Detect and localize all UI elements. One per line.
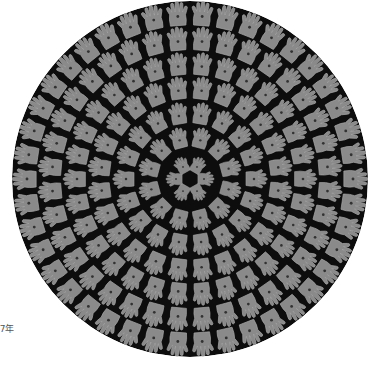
palm-dot-icon	[106, 212, 109, 215]
palm-dot-icon	[200, 115, 202, 117]
palm-dot-icon	[201, 340, 204, 343]
palm-dot-icon	[308, 288, 311, 291]
palm-dot-icon	[323, 269, 326, 272]
palm-dot-icon	[91, 275, 94, 278]
palm-dot-icon	[248, 329, 251, 332]
palm-dot-icon	[314, 119, 317, 122]
palm-dot-icon	[302, 257, 305, 260]
palm-dot-icon	[69, 288, 72, 291]
palm-dot-icon	[130, 53, 133, 56]
palm-dot-icon	[132, 80, 135, 83]
palm-dot-icon	[26, 178, 29, 181]
palm-dot-icon	[201, 290, 204, 293]
palm-dot-icon	[177, 290, 180, 293]
palm-dot-icon	[85, 132, 88, 135]
palm-dot-icon	[107, 36, 110, 39]
palm-dot-icon	[140, 219, 142, 221]
palm-dot-icon	[178, 115, 180, 117]
palm-dot-icon	[113, 94, 116, 97]
palm-dot-icon	[64, 119, 67, 122]
palm-dot-icon	[268, 65, 271, 68]
palm-dot-icon	[224, 285, 227, 288]
palm-dot-icon	[271, 144, 274, 147]
palm-dot-icon	[130, 303, 133, 306]
palm-dot-icon	[268, 291, 271, 294]
palm-dot-icon	[177, 266, 180, 269]
palm-dot-icon	[33, 130, 36, 133]
palm-dot-icon	[270, 319, 273, 322]
palm-dot-icon	[182, 190, 184, 192]
hand-circle-artwork	[0, 0, 374, 369]
palm-dot-icon	[129, 200, 131, 202]
palm-dot-icon	[217, 150, 219, 152]
palm-dot-icon	[277, 166, 280, 169]
palm-dot-icon	[280, 111, 283, 114]
palm-dot-icon	[292, 132, 295, 135]
palm-dot-icon	[201, 315, 204, 318]
palm-dot-icon	[299, 154, 302, 157]
palm-dot-icon	[106, 144, 109, 147]
palm-dot-icon	[224, 44, 227, 47]
palm-dot-icon	[227, 167, 229, 169]
palm-dot-icon	[302, 98, 305, 101]
palm-dot-icon	[87, 50, 90, 53]
palm-dot-icon	[125, 178, 127, 180]
palm-dot-icon	[69, 67, 72, 70]
palm-dot-icon	[308, 67, 311, 70]
palm-dot-icon	[322, 142, 325, 145]
palm-dot-icon	[161, 206, 163, 208]
palm-dot-icon	[161, 150, 163, 152]
palm-dot-icon	[51, 190, 54, 193]
palm-dot-icon	[350, 153, 353, 156]
palm-dot-icon	[129, 329, 132, 332]
palm-dot-icon	[153, 311, 156, 314]
palm-dot-icon	[140, 137, 142, 139]
palm-dot-icon	[302, 178, 305, 181]
palm-dot-icon	[54, 86, 57, 89]
palm-dot-icon	[335, 107, 338, 110]
palm-dot-icon	[176, 340, 179, 343]
palm-dot-icon	[238, 137, 240, 139]
palm-dot-icon	[224, 70, 227, 73]
palm-dot-icon	[153, 44, 156, 47]
palm-dot-icon	[135, 107, 138, 110]
palm-dot-icon	[85, 224, 88, 227]
palm-dot-icon	[196, 190, 198, 192]
palm-dot-icon	[55, 213, 58, 216]
palm-dot-icon	[326, 166, 329, 169]
palm-dot-icon	[344, 226, 347, 229]
palm-dot-icon	[177, 40, 180, 43]
palm-dot-icon	[290, 305, 293, 308]
palm-dot-icon	[264, 94, 267, 97]
palm-dot-icon	[178, 216, 180, 218]
palm-dot-icon	[264, 262, 267, 265]
palm-dot-icon	[87, 305, 90, 308]
palm-dot-icon	[259, 232, 262, 235]
palm-dot-icon	[286, 275, 289, 278]
palm-dot-icon	[100, 166, 103, 169]
palm-dot-icon	[150, 188, 152, 190]
palm-dot-icon	[91, 80, 94, 83]
palm-dot-icon	[280, 244, 283, 247]
palm-dot-icon	[177, 89, 180, 92]
date-caption: 97年	[0, 323, 14, 335]
palm-dot-icon	[155, 260, 158, 263]
palm-dot-icon	[224, 311, 227, 314]
palm-dot-icon	[245, 276, 248, 279]
palm-dot-icon	[27, 153, 30, 156]
palm-dot-icon	[203, 178, 205, 180]
palm-dot-icon	[201, 40, 204, 43]
palm-dot-icon	[253, 178, 255, 180]
palm-dot-icon	[27, 202, 30, 205]
palm-dot-icon	[350, 202, 353, 205]
palm-dot-icon	[249, 156, 251, 158]
palm-dot-icon	[152, 336, 155, 339]
palm-dot-icon	[175, 178, 177, 180]
palm-dot-icon	[221, 233, 223, 235]
palm-dot-icon	[157, 122, 159, 124]
palm-dot-icon	[78, 154, 81, 157]
palm-dot-icon	[76, 178, 79, 181]
palm-dot-icon	[97, 111, 100, 114]
palm-dot-icon	[225, 336, 228, 339]
palm-dot-icon	[199, 139, 201, 141]
